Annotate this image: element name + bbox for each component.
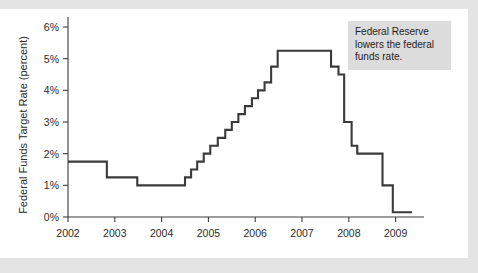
x-axis-tick-label: 2009 (384, 227, 408, 239)
y-axis-tick-label: 2% (44, 148, 59, 160)
page-background-band-bottom (0, 258, 478, 273)
page-background-band-top (0, 0, 478, 9)
x-axis-tick-label: 2002 (56, 227, 80, 239)
x-axis-tick-label: 2008 (337, 227, 361, 239)
y-axis-title: Federal Funds Target Rate (percent) (17, 36, 29, 214)
series-line-federal-funds-target-rate (68, 51, 412, 213)
y-axis-tick-label: 6% (44, 21, 59, 33)
x-axis-tick-label: 2004 (150, 227, 174, 239)
x-axis-tick-label: 2005 (197, 227, 221, 239)
chart-card: Federal Funds Target Rate (percent) 0%1%… (0, 9, 468, 258)
y-axis-tick-labels: 0%1%2%3%4%5%6% (44, 21, 59, 223)
y-axis-tick-label: 4% (44, 84, 59, 96)
annotation-text: Federal Reserve lowers the federal funds… (355, 26, 434, 62)
chart-screenshot: Federal Funds Target Rate (percent) 0%1%… (0, 0, 478, 273)
y-axis-tick-label: 5% (44, 53, 59, 65)
annotation-callout: Federal Reserve lowers the federal funds… (348, 21, 451, 70)
y-axis-tick-label: 3% (44, 116, 59, 128)
x-axis-tick-label: 2006 (244, 227, 268, 239)
y-axis-tick-label: 0% (44, 211, 59, 223)
x-axis-tick-label: 2007 (290, 227, 314, 239)
x-axis-tick-marks (68, 217, 396, 222)
y-axis-title-text: Federal Funds Target Rate (percent) (17, 36, 29, 214)
x-axis-tick-label: 2003 (103, 227, 127, 239)
page-background-band-right (468, 0, 478, 273)
y-axis-tick-marks (63, 27, 68, 217)
y-axis-tick-label: 1% (44, 179, 59, 191)
x-axis-tick-labels: 20022003200420052006200720082009 (56, 227, 407, 239)
